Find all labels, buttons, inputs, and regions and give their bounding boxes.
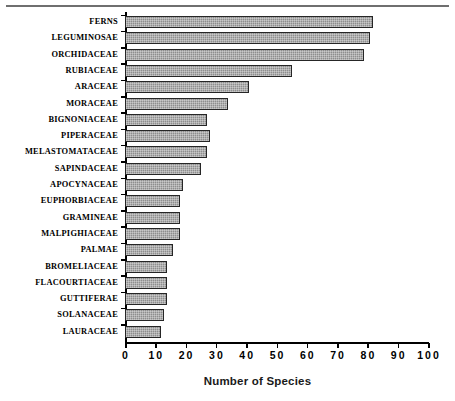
bar: [125, 261, 167, 273]
x-axis-tick: [277, 343, 279, 348]
category-label: FERNS: [0, 14, 118, 30]
y-axis-tick: [121, 80, 125, 82]
bar: [125, 49, 364, 61]
y-axis-tick: [121, 145, 125, 147]
chart-row: BROMELIACEAE: [0, 259, 455, 275]
chart-row: LAURACEAE: [0, 324, 455, 340]
chart-row: RUBIACEAE: [0, 63, 455, 79]
x-axis-tick: [307, 343, 309, 348]
x-axis-tick: [428, 343, 430, 348]
chart-row: MALPIGHIACEAE: [0, 226, 455, 242]
category-label: BROMELIACEAE: [0, 259, 118, 275]
category-label: LAURACEAE: [0, 324, 118, 340]
y-axis-tick: [121, 243, 125, 245]
species-bar-chart: FERNSLEGUMINOSAEORCHIDACEAERUBIACEAEARAC…: [0, 0, 455, 401]
chart-row: PIPERACEAE: [0, 128, 455, 144]
bar: [125, 16, 373, 28]
category-label: ORCHIDACEAE: [0, 47, 118, 63]
bar: [125, 81, 249, 93]
bar: [125, 195, 180, 207]
category-label: PALMAE: [0, 242, 118, 258]
y-axis-tick: [121, 63, 125, 65]
bar: [125, 65, 292, 77]
y-axis-tick: [121, 15, 125, 17]
category-label: SOLANACEAE: [0, 307, 118, 323]
bar: [125, 163, 201, 175]
x-axis-tick: [216, 343, 218, 348]
x-axis-tick-label: 100: [408, 349, 448, 361]
y-axis-tick: [121, 129, 125, 131]
y-axis-tick: [121, 210, 125, 212]
bar: [125, 277, 167, 289]
y-axis-tick: [121, 96, 125, 98]
category-label: FLACOURTIACEAE: [0, 275, 118, 291]
bar: [125, 293, 167, 305]
category-label: ARACEAE: [0, 79, 118, 95]
chart-row: APOCYNACEAE: [0, 177, 455, 193]
chart-row: GUTTIFERAE: [0, 291, 455, 307]
category-label: RUBIACEAE: [0, 63, 118, 79]
y-axis-tick: [121, 194, 125, 196]
category-label: PIPERACEAE: [0, 128, 118, 144]
y-axis-tick: [121, 161, 125, 163]
x-axis-tick: [125, 343, 127, 348]
bar: [125, 326, 161, 338]
category-label: LEGUMINOSAE: [0, 30, 118, 46]
bar: [125, 309, 164, 321]
y-axis-tick: [121, 47, 125, 49]
category-label: EUPHORBIACEAE: [0, 193, 118, 209]
y-axis-tick: [121, 259, 125, 261]
chart-row: PALMAE: [0, 242, 455, 258]
chart-row: MELASTOMATACEAE: [0, 144, 455, 160]
bar: [125, 130, 210, 142]
x-axis-tick: [367, 343, 369, 348]
category-label: GRAMINEAE: [0, 210, 118, 226]
x-axis-tick: [246, 343, 248, 348]
y-axis-tick: [121, 275, 125, 277]
bar: [125, 146, 207, 158]
chart-row: BIGNONIACEAE: [0, 112, 455, 128]
chart-row: FLACOURTIACEAE: [0, 275, 455, 291]
x-axis-tick: [337, 343, 339, 348]
y-axis-tick: [121, 292, 125, 294]
chart-row: SOLANACEAE: [0, 307, 455, 323]
chart-row: FERNS: [0, 14, 455, 30]
category-label: SAPINDACEAE: [0, 161, 118, 177]
chart-row: EUPHORBIACEAE: [0, 193, 455, 209]
chart-row: SAPINDACEAE: [0, 161, 455, 177]
x-axis-tick: [155, 343, 157, 348]
bar: [125, 179, 183, 191]
category-label: MORACEAE: [0, 96, 118, 112]
y-axis-tick: [121, 112, 125, 114]
x-axis-tick: [398, 343, 400, 348]
bar: [125, 114, 207, 126]
bar: [125, 244, 173, 256]
y-axis-tick: [121, 178, 125, 180]
chart-row: GRAMINEAE: [0, 210, 455, 226]
y-axis-tick: [121, 31, 125, 33]
bar: [125, 212, 180, 224]
y-axis-tick: [121, 324, 125, 326]
category-label: MELASTOMATACEAE: [0, 144, 118, 160]
bar: [125, 98, 228, 110]
plot-area: FERNSLEGUMINOSAEORCHIDACEAERUBIACEAEARAC…: [0, 0, 455, 401]
category-label: BIGNONIACEAE: [0, 112, 118, 128]
chart-row: MORACEAE: [0, 96, 455, 112]
category-label: MALPIGHIACEAE: [0, 226, 118, 242]
x-axis-title: Number of Species: [0, 375, 455, 387]
bar: [125, 228, 180, 240]
y-axis-tick: [121, 226, 125, 228]
category-label: APOCYNACEAE: [0, 177, 118, 193]
category-label: GUTTIFERAE: [0, 291, 118, 307]
chart-row: ORCHIDACEAE: [0, 47, 455, 63]
chart-row: LEGUMINOSAE: [0, 30, 455, 46]
bar: [125, 32, 370, 44]
chart-row: ARACEAE: [0, 79, 455, 95]
y-axis-tick: [121, 308, 125, 310]
x-axis-tick: [186, 343, 188, 348]
